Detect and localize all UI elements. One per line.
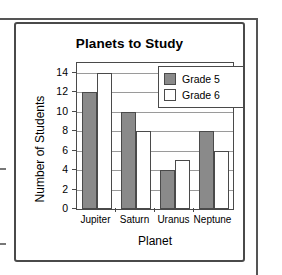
y-axis-tick-label: 2 (38, 184, 68, 195)
legend-item-label: Grade 5 (182, 73, 220, 85)
x-axis-title: Planet (76, 234, 234, 248)
x-axis-tick-label: Saturn (115, 214, 154, 225)
y-axis-tick-label: 14 (38, 67, 68, 78)
scan-edge-tick (0, 243, 6, 245)
legend-item-label: Grade 6 (182, 89, 220, 101)
scan-rule-top (0, 18, 258, 20)
bar (214, 151, 229, 209)
y-axis-tick-label: 6 (38, 145, 68, 156)
bar (199, 131, 214, 209)
bar (97, 73, 112, 209)
x-axis-tick-label: Neptune (193, 214, 232, 225)
scan-rule-right (256, 18, 258, 275)
x-axis-tick (154, 208, 155, 212)
x-axis-tick-label: Jupiter (76, 214, 115, 225)
bar (82, 92, 97, 209)
y-axis-tick-label: 8 (38, 125, 68, 136)
scan-edge-tick (0, 168, 6, 170)
y-axis-tick-label: 10 (38, 106, 68, 117)
legend-item: Grade 5 (164, 71, 238, 87)
y-axis-tick-label: 4 (38, 164, 68, 175)
chart-title: Planets to Study (16, 36, 243, 51)
legend-swatch-icon (164, 73, 176, 85)
legend-item: Grade 6 (164, 87, 238, 103)
chart-legend: Grade 5Grade 6 (158, 66, 244, 108)
x-axis-tick (193, 208, 194, 212)
y-axis-tick-label: 12 (38, 86, 68, 97)
legend-swatch-icon (164, 89, 176, 101)
x-axis-tick (115, 208, 116, 212)
bar (121, 112, 136, 209)
x-axis-tick-label: Uranus (154, 214, 193, 225)
y-axis-tick-label: 0 (38, 203, 68, 214)
chart-figure-frame: Planets to Study Number of Students 0246… (14, 22, 245, 262)
bar (175, 160, 190, 209)
bar (160, 170, 175, 209)
bar (136, 131, 151, 209)
